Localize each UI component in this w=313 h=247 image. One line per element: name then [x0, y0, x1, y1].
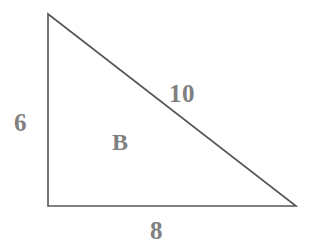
triangle-diagram-canvas: 6 8 10 B: [0, 0, 313, 247]
vertical-leg-label: 6: [14, 110, 27, 135]
hypotenuse-label: 10: [169, 81, 195, 106]
triangle-shape: [0, 0, 313, 247]
horizontal-leg-label: 8: [150, 218, 163, 243]
region-label: B: [112, 130, 128, 154]
triangle-outline: [48, 14, 296, 206]
